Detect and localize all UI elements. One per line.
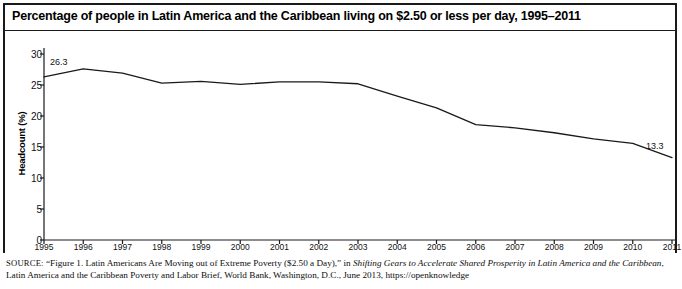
x-axis-tick-label: 2002: [309, 242, 328, 252]
plot-area: Headcount (%) 051015202530 1995199619971…: [0, 32, 682, 257]
title-divider: [5, 30, 675, 31]
chart-title: Percentage of people in Latin America an…: [12, 9, 581, 23]
series-line-headcount: [44, 69, 672, 158]
x-axis-tick-labels: 1995199619971998199920002001200220032004…: [0, 242, 682, 258]
x-axis-tick-label: 2001: [270, 242, 289, 252]
x-axis-tick-label: 1996: [74, 242, 93, 252]
x-axis-tick-label: 2000: [231, 242, 250, 252]
x-axis-tick-label: 2005: [427, 242, 446, 252]
source-label: SOURCE:: [6, 258, 44, 268]
x-axis-tick-label: 2004: [388, 242, 407, 252]
data-point-label: 13.3: [646, 141, 664, 151]
x-axis-tick-label: 1999: [192, 242, 211, 252]
x-axis-tick-label: 2008: [545, 242, 564, 252]
x-axis-tick-label: 2006: [466, 242, 485, 252]
x-axis-tick-label: 2011: [663, 242, 681, 252]
x-axis-tick-label: 2009: [584, 242, 603, 252]
source-text-1: “Figure 1. Latin Americans Are Moving ou…: [44, 258, 353, 268]
figure-container: Percentage of people in Latin America an…: [0, 0, 682, 289]
x-axis-tick-label: 1998: [152, 242, 171, 252]
line-chart-svg: [0, 32, 682, 257]
source-publication-title: Shifting Gears to Accelerate Shared Pros…: [353, 258, 662, 268]
axes-group: [40, 48, 676, 244]
x-axis-tick-label: 1997: [113, 242, 132, 252]
x-axis-tick-label: 2003: [349, 242, 368, 252]
source-note: SOURCE: “Figure 1. Latin Americans Are M…: [6, 258, 678, 281]
x-axis-tick-label: 1995: [35, 242, 54, 252]
x-axis-tick-label: 2010: [623, 242, 642, 252]
x-axis-tick-label: 2007: [506, 242, 525, 252]
data-point-label: 26.3: [50, 57, 68, 67]
